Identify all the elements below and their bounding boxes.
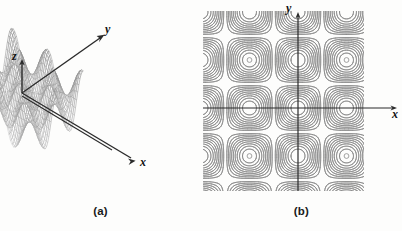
- contour-plot-svg: [201, 0, 402, 231]
- surface-mesh: [0, 28, 83, 148]
- y-axis-line: [22, 38, 100, 93]
- surface-plot-svg: [0, 0, 201, 231]
- panel-a-caption: (a): [0, 205, 201, 217]
- contour-lines: [203, 8, 397, 194]
- x-axis-arrowhead: [128, 158, 136, 165]
- y-axis-arrowhead: [97, 35, 105, 43]
- surface-x-axis-label: x: [140, 156, 146, 168]
- figure-container: z y x (a) y x (b): [0, 0, 402, 231]
- contour-x-axis-label: x: [392, 108, 398, 120]
- surface-z-axis-label: z: [12, 50, 17, 62]
- surface-y-axis-label: y: [105, 23, 110, 35]
- panel-a-surface-plot: z y x (a): [0, 0, 201, 231]
- panel-b-caption: (b): [201, 205, 402, 217]
- contour-y-axis-label: y: [286, 2, 291, 14]
- panel-b-contour-plot: y x (b): [201, 0, 402, 231]
